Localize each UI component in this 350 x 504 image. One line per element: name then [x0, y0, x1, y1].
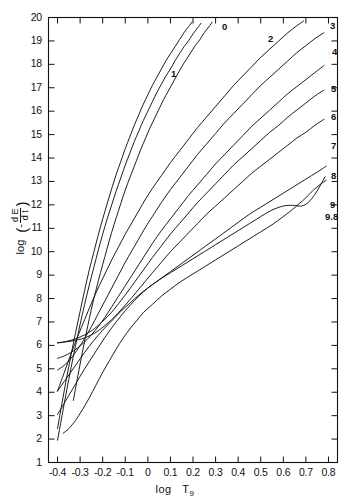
curve-label-0: 0	[222, 21, 227, 32]
curve-label-5: 5	[331, 83, 336, 94]
y-axis-fraction-denominator: d t	[21, 207, 30, 223]
y-axis-paren-close: )	[13, 201, 30, 206]
y-tick-label-15: 15	[8, 128, 42, 140]
curve-label-7: 7	[331, 140, 336, 151]
y-tick-label-5: 5	[8, 362, 42, 374]
y-tick-label-19: 19	[8, 34, 42, 46]
curve-label-2: 2	[268, 33, 273, 44]
curve-0	[58, 22, 192, 428]
y-tick-label-4: 4	[8, 385, 42, 397]
curve-9	[58, 177, 326, 415]
y-axis-derivative-fraction: d Ed t	[11, 207, 31, 223]
x-axis-title: log T9	[0, 483, 350, 498]
y-tick-label-17: 17	[8, 81, 42, 93]
curve-label-9-8: 9.8	[325, 211, 338, 222]
y-axis-title-prefix: log	[14, 240, 26, 255]
y-tick-label-1: 1	[8, 456, 42, 468]
y-tick-label-16: 16	[8, 104, 42, 116]
y-tick-label-6: 6	[8, 338, 42, 350]
y-tick-label-8: 8	[8, 292, 42, 304]
curve-label-6: 6	[331, 111, 336, 122]
x-axis-title-prefix: log	[156, 483, 172, 495]
curve-label-3: 3	[330, 20, 335, 31]
axis-ticks	[49, 18, 338, 463]
curve-label-4: 4	[332, 46, 337, 57]
y-tick-label-14: 14	[8, 151, 42, 163]
y-axis-title: log (-d Ed t)	[11, 163, 31, 293]
x-axis-title-subscript: 9	[190, 489, 195, 498]
curve-2	[73, 22, 212, 400]
y-tick-label-3: 3	[8, 409, 42, 421]
curve-8	[58, 166, 327, 391]
y-tick-label-7: 7	[8, 315, 42, 327]
curve-7	[58, 119, 324, 342]
y-tick-label-18: 18	[8, 57, 42, 69]
x-tick-label-0m8: 0.8	[311, 466, 345, 478]
curve-4	[58, 33, 324, 370]
curve-label-8: 8	[331, 170, 336, 181]
y-axis-paren-open: (	[13, 228, 30, 233]
y-tick-label-2: 2	[8, 432, 42, 444]
figure-panel: 1234567891011121314151617181920 -0.4-0.3…	[0, 0, 350, 504]
y-axis-minus: -	[14, 224, 26, 228]
curve-label-9: 9	[330, 199, 335, 210]
y-tick-label-20: 20	[8, 11, 42, 23]
curve-label-1: 1	[171, 68, 176, 79]
data-curves	[58, 21, 327, 440]
axes-frame	[49, 18, 338, 463]
x-axis-title-symbol: T	[182, 483, 189, 495]
